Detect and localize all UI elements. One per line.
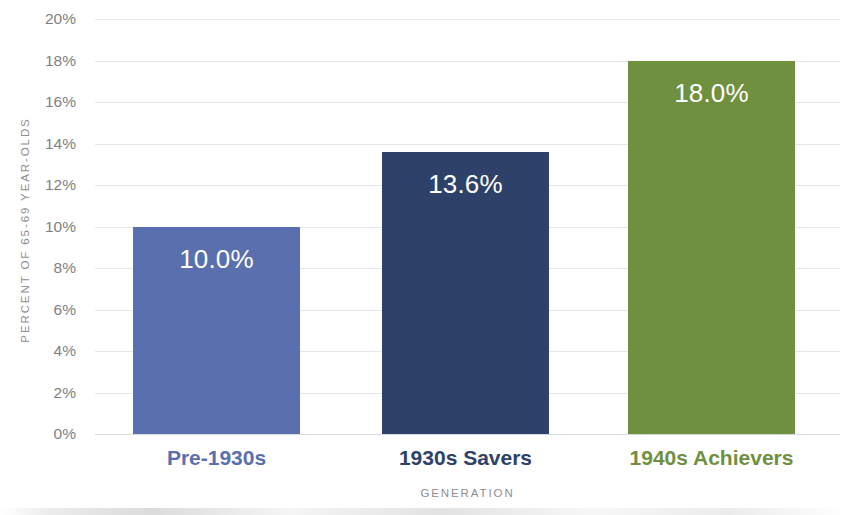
- x-category-label: Pre-1930s: [93, 446, 340, 470]
- y-tick-6%: 6%: [6, 301, 76, 319]
- y-tick-18%: 18%: [6, 52, 76, 70]
- bar-value-label: 13.6%: [382, 169, 549, 200]
- plot-area: 10.0%13.6%18.0%: [95, 0, 840, 515]
- scan-artifact: [0, 508, 847, 515]
- x-category-label: 1930s Savers: [342, 446, 589, 470]
- bar-value-label: 10.0%: [133, 244, 300, 275]
- y-tick-0%: 0%: [6, 425, 76, 443]
- y-tick-12%: 12%: [6, 176, 76, 194]
- y-tick-20%: 20%: [6, 10, 76, 28]
- y-tick-8%: 8%: [6, 259, 76, 277]
- y-tick-2%: 2%: [6, 384, 76, 402]
- x-category-label: 1940s Achievers: [588, 446, 835, 470]
- x-axis-title: GENERATION: [95, 487, 840, 499]
- y-axis-tick-labels: 20%18%16%14%12%10%8%6%4%2%0%: [6, 0, 76, 515]
- y-tick-16%: 16%: [6, 93, 76, 111]
- bar-chart: PERCENT OF 65-69 YEAR-OLDS 20%18%16%14%1…: [0, 0, 847, 515]
- y-tick-14%: 14%: [6, 135, 76, 153]
- y-tick-10%: 10%: [6, 218, 76, 236]
- bar[interactable]: 13.6%: [382, 152, 549, 434]
- bar-series: 10.0%13.6%18.0%: [95, 0, 840, 515]
- bar[interactable]: 10.0%: [133, 227, 300, 435]
- bar-value-label: 18.0%: [628, 78, 795, 109]
- bar[interactable]: 18.0%: [628, 61, 795, 435]
- y-tick-4%: 4%: [6, 342, 76, 360]
